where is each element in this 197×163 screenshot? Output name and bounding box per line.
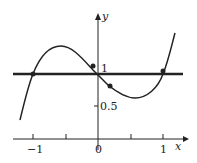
x-tick-label-0: 0 <box>95 143 102 156</box>
x-axis-label: x <box>175 140 182 153</box>
y-tick-label-05: 0.5 <box>100 100 118 113</box>
x-tick-label-neg1: −1 <box>27 143 43 156</box>
chart: y x −1 0 1 1 0.5 <box>0 0 197 163</box>
x-tick-label-1: 1 <box>160 143 167 156</box>
point-marker <box>31 72 36 77</box>
point-marker <box>91 64 96 69</box>
point-marker <box>161 69 166 74</box>
x-axis-arrow-icon <box>183 136 189 142</box>
y-tick-label-1: 1 <box>101 62 108 75</box>
y-axis-arrow-icon <box>95 13 101 20</box>
point-marker <box>108 84 113 89</box>
y-axis-label: y <box>101 10 109 23</box>
